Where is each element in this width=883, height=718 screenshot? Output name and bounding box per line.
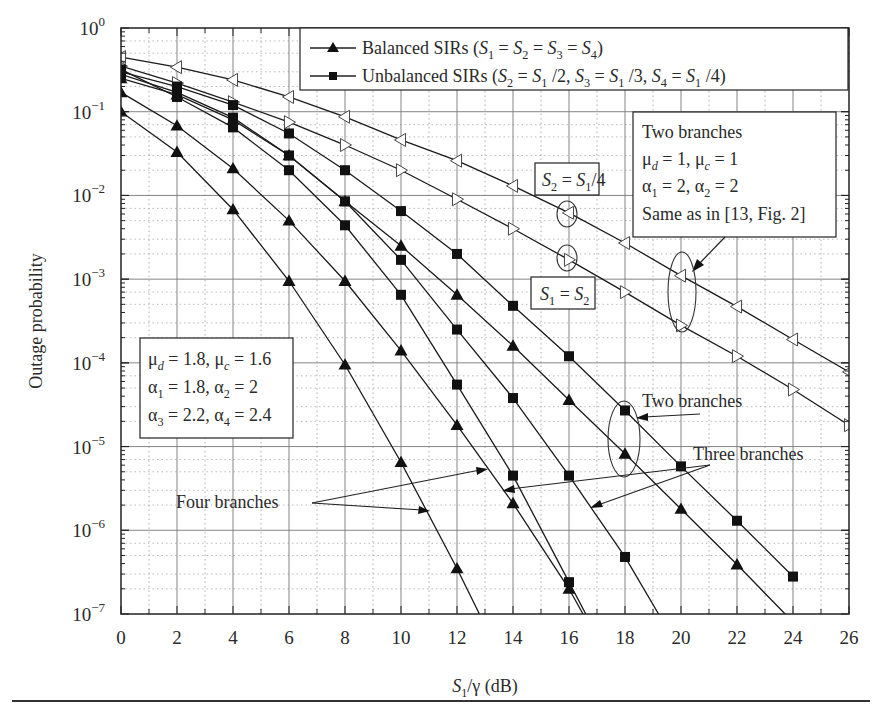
x-tick-label: 6 xyxy=(284,627,294,648)
two-branches-label: Two branches xyxy=(642,391,742,411)
triangle-marker xyxy=(507,497,520,508)
y-tick-label: 10−4 xyxy=(72,349,105,374)
square-marker xyxy=(732,516,742,526)
triangle-marker xyxy=(171,146,184,157)
triangle-marker xyxy=(451,419,464,430)
square-marker xyxy=(396,255,406,265)
open-triangle-marker xyxy=(563,206,574,219)
x-tick-label: 16 xyxy=(560,627,579,648)
x-tick-label: 20 xyxy=(672,627,691,648)
y-tick-label: 10−1 xyxy=(72,98,105,123)
open-triangle-marker xyxy=(732,350,743,363)
legend-square-icon xyxy=(329,72,337,80)
x-tick-label: 0 xyxy=(116,627,126,648)
triangle-marker xyxy=(171,119,184,130)
open-triangle-marker xyxy=(620,286,631,299)
open-triangle-marker xyxy=(731,300,742,313)
x-tick-label: 24 xyxy=(784,627,804,648)
square-marker xyxy=(452,249,462,259)
x-tick-label: 22 xyxy=(728,627,747,648)
open-triangle-marker xyxy=(395,133,406,146)
y-tick-label: 10−3 xyxy=(72,265,105,290)
triangle-marker xyxy=(395,239,408,250)
open-triangle-marker xyxy=(396,164,407,177)
y-tick-label: 10−7 xyxy=(72,600,105,625)
square-marker xyxy=(284,150,294,160)
x-tick-label: 18 xyxy=(616,627,635,648)
x-tick-label: 14 xyxy=(504,627,524,648)
two-branch-ellipse xyxy=(668,252,696,332)
arrow-head-icon xyxy=(476,467,488,475)
open-triangle-marker xyxy=(787,333,798,346)
outage-probability-chart: 0246810121416182022242610010−110−210−310… xyxy=(0,0,883,718)
open-triangle-marker xyxy=(564,253,575,266)
open-triangle-marker xyxy=(452,193,463,206)
y-tick-label: 10−6 xyxy=(72,516,105,541)
square-marker xyxy=(620,552,630,562)
square-marker xyxy=(676,461,686,471)
y-axis-label: Outage probability xyxy=(26,253,46,388)
square-marker xyxy=(228,113,238,123)
four-branches-label: Four branches xyxy=(176,492,278,512)
x-tick-label: 12 xyxy=(448,627,467,648)
x-tick-label: 10 xyxy=(392,627,411,648)
square-marker xyxy=(788,572,798,582)
y-tick-label: 10−5 xyxy=(72,433,105,458)
pointer-arrow xyxy=(312,503,422,510)
triangle-marker xyxy=(227,162,240,173)
open-triangle-marker xyxy=(284,116,295,129)
open-triangle-marker xyxy=(844,419,855,432)
open-triangle-marker xyxy=(227,73,238,86)
square-marker xyxy=(508,393,518,403)
square-marker xyxy=(564,351,574,361)
x-tick-label: 26 xyxy=(840,627,859,648)
arrow-head-icon xyxy=(590,500,603,508)
square-marker xyxy=(452,325,462,335)
square-marker xyxy=(340,196,350,206)
two-branch-title: Two branches xyxy=(642,122,742,142)
y-tick-label: 100 xyxy=(80,14,106,39)
y-tick-label: 10−2 xyxy=(72,181,105,206)
triangle-marker xyxy=(395,456,408,467)
open-triangle-marker xyxy=(508,222,519,235)
x-tick-label: 4 xyxy=(228,627,238,648)
open-triangle-marker xyxy=(339,110,350,123)
annotations: Balanced SIRs (S1 = S2 = S3 = S4)Unbalan… xyxy=(140,28,848,514)
square-marker xyxy=(396,290,406,300)
open-triangle-marker xyxy=(675,269,686,282)
x-axis-label: S1/γ (dB) xyxy=(452,676,517,700)
square-marker xyxy=(508,301,518,311)
two-branch-reference: Same as in [13, Fig. 2] xyxy=(642,204,806,224)
open-triangle-marker xyxy=(788,383,799,396)
bottom-divider xyxy=(12,700,870,702)
triangle-marker xyxy=(451,562,464,573)
x-tick-label: 2 xyxy=(172,627,182,648)
pointer-arrow xyxy=(312,470,480,503)
three-branches-label: Three branches xyxy=(693,444,803,464)
pointer-arrow xyxy=(698,237,725,265)
two-branch-lower-ellipse xyxy=(608,401,640,477)
triangle-marker xyxy=(339,358,352,369)
square-marker xyxy=(564,577,574,587)
square-marker xyxy=(228,100,238,110)
square-marker xyxy=(340,220,350,230)
square-marker xyxy=(396,206,406,216)
square-marker xyxy=(284,128,294,138)
square-marker xyxy=(508,471,518,481)
x-tick-label: 8 xyxy=(340,627,350,648)
square-marker xyxy=(172,92,182,102)
square-marker xyxy=(340,165,350,175)
open-triangle-marker xyxy=(340,139,351,152)
open-triangle-marker xyxy=(451,154,462,167)
open-triangle-marker xyxy=(507,179,518,192)
pointer-arrow xyxy=(510,465,710,489)
square-marker xyxy=(452,380,462,390)
open-triangle-marker xyxy=(843,365,854,378)
open-triangle-marker xyxy=(619,237,630,250)
pointer-arrow xyxy=(644,414,700,417)
square-marker xyxy=(284,165,294,175)
square-marker xyxy=(228,122,238,132)
open-triangle-marker xyxy=(283,90,294,103)
square-marker xyxy=(564,471,574,481)
